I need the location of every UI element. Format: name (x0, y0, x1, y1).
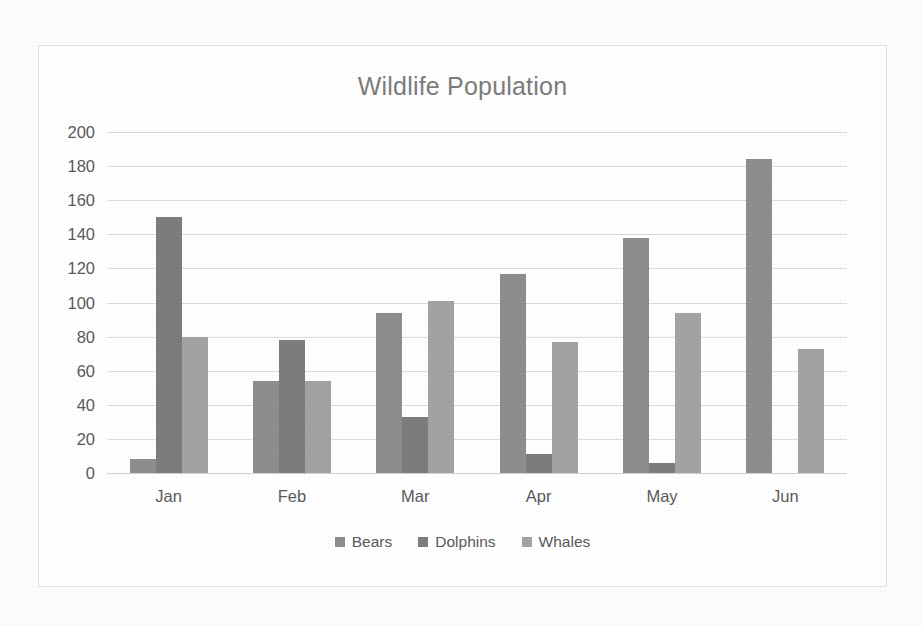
y-axis-tick-label: 140 (67, 225, 95, 244)
bar[interactable] (746, 159, 772, 473)
y-axis-tick-label: 120 (67, 259, 95, 278)
bar[interactable] (649, 463, 675, 473)
x-axis-tick-label: Apr (477, 487, 600, 506)
scanned-page: Wildlife Population 20018016014012010080… (0, 0, 922, 625)
bar[interactable] (500, 274, 526, 473)
chart-frame: Wildlife Population 20018016014012010080… (38, 45, 887, 587)
y-axis-tick-label: 80 (77, 327, 95, 346)
bar[interactable] (526, 454, 552, 473)
y-axis-tick-label: 160 (67, 191, 95, 210)
bar[interactable] (623, 238, 649, 473)
x-axis-tick-label: Feb (230, 487, 353, 506)
bar[interactable] (156, 217, 182, 473)
legend-item[interactable]: Whales (522, 533, 591, 551)
bar-groups (107, 132, 847, 473)
y-axis-tick-label: 20 (77, 429, 95, 448)
bar-group (230, 132, 353, 473)
y-axis-tick-label: 200 (67, 123, 95, 142)
bar[interactable] (253, 381, 279, 473)
x-axis-tick-label: Mar (354, 487, 477, 506)
y-axis-tick-label: 40 (77, 395, 95, 414)
bar[interactable] (798, 349, 824, 473)
legend-swatch-icon (335, 537, 345, 547)
y-axis-tick-label: 100 (67, 293, 95, 312)
bar[interactable] (552, 342, 578, 473)
bar-group (354, 132, 477, 473)
x-axis-tick-label: Jan (107, 487, 230, 506)
bar[interactable] (130, 459, 156, 473)
bar-group (600, 132, 723, 473)
gridline (107, 473, 847, 474)
bar[interactable] (182, 337, 208, 473)
x-axis-tick-label: May (600, 487, 723, 506)
plot-area: 200180160140120100806040200 (107, 132, 847, 473)
legend-label: Bears (352, 533, 393, 551)
legend-swatch-icon (418, 537, 428, 547)
bar[interactable] (675, 313, 701, 473)
y-axis-tick-label: 0 (86, 464, 95, 483)
bar[interactable] (305, 381, 331, 473)
x-axis-tick-label: Jun (724, 487, 847, 506)
bar-group (724, 132, 847, 473)
legend-label: Dolphins (435, 533, 495, 551)
legend-label: Whales (539, 533, 591, 551)
bar-group (107, 132, 230, 473)
x-axis-tick-labels: JanFebMarAprMayJun (107, 487, 847, 506)
y-axis-tick-label: 60 (77, 361, 95, 380)
legend-item[interactable]: Bears (335, 533, 393, 551)
bar[interactable] (402, 417, 428, 473)
chart-legend: BearsDolphinsWhales (39, 533, 886, 551)
legend-swatch-icon (522, 537, 532, 547)
bar[interactable] (279, 340, 305, 473)
bar[interactable] (428, 301, 454, 473)
bar[interactable] (376, 313, 402, 473)
bar-group (477, 132, 600, 473)
y-axis-tick-label: 180 (67, 157, 95, 176)
legend-item[interactable]: Dolphins (418, 533, 495, 551)
chart-title: Wildlife Population (39, 72, 886, 101)
